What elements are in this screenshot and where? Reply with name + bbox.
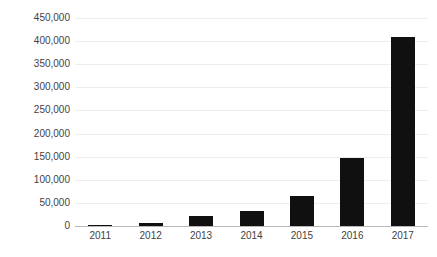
bar-2016 <box>340 18 364 226</box>
bar-rect <box>240 211 264 226</box>
bar-rect <box>139 223 163 226</box>
bar-2017 <box>391 18 415 226</box>
bar-2012 <box>139 18 163 226</box>
y-axis-tick-label: 0 <box>4 221 70 231</box>
y-axis-tick-label: 250,000 <box>4 105 70 115</box>
bar-2015 <box>290 18 314 226</box>
bar-2013 <box>189 18 213 226</box>
bar-2014 <box>240 18 264 226</box>
y-axis-tick-label: 50,000 <box>4 198 70 208</box>
x-axis-tick-label: 2011 <box>73 230 127 242</box>
x-axis-tick-label: 2012 <box>124 230 178 242</box>
y-axis-tick-label: 100,000 <box>4 175 70 185</box>
x-axis-tick-label: 2016 <box>325 230 379 242</box>
bar-rect <box>88 225 112 227</box>
plot-area <box>75 18 428 226</box>
bar-rect <box>290 196 314 226</box>
y-axis-tick-label: 350,000 <box>4 59 70 69</box>
y-axis-tick-label: 200,000 <box>4 129 70 139</box>
x-axis: 2011201220132014201520162017 <box>75 230 428 250</box>
bar-2011 <box>88 18 112 226</box>
y-axis-tick-label: 150,000 <box>4 152 70 162</box>
y-axis-tick-label: 400,000 <box>4 36 70 46</box>
bar-rect <box>189 216 213 226</box>
y-axis: 450,000400,000350,000300,000250,000200,0… <box>0 18 70 226</box>
x-axis-tick-label: 2015 <box>275 230 329 242</box>
bar-chart: 450,000400,000350,000300,000250,000200,0… <box>0 0 437 257</box>
x-axis-tick-label: 2013 <box>174 230 228 242</box>
bar-rect <box>391 37 415 226</box>
bar-rect <box>340 158 364 226</box>
y-axis-tick-label: 450,000 <box>4 13 70 23</box>
y-axis-tick-label: 300,000 <box>4 82 70 92</box>
x-axis-tick-label: 2017 <box>376 230 430 242</box>
x-axis-tick-label: 2014 <box>225 230 279 242</box>
axis-baseline <box>75 226 428 227</box>
